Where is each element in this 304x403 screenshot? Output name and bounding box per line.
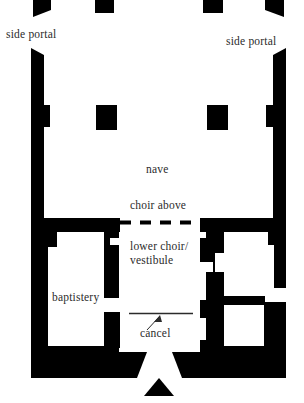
bottom-wall-splay-right (172, 352, 286, 378)
right-room-white-lower (224, 305, 264, 346)
nave-pier-right (207, 105, 228, 130)
nave-pier-left (96, 105, 117, 130)
top-wall-stub-outer-left (33, 0, 51, 17)
top-wall-stub-inner-right (203, 0, 223, 13)
right-room-step-bottom (206, 318, 224, 346)
right-nave-wall (266, 48, 286, 220)
baptistery-right-wall-lower-stub (104, 312, 120, 348)
baptistery-interior (48, 232, 104, 346)
lower-block-top-band-right (200, 218, 286, 232)
floor-plan-figure: side portal side portal nave choir above… (0, 0, 304, 403)
right-room-step-lower (206, 272, 224, 306)
bottom-wall-splay-left (31, 352, 147, 378)
baptistery-corner-notch (48, 232, 57, 247)
label-side-portal-left: side portal (6, 28, 56, 42)
lower-block-top-band-left (31, 218, 120, 232)
right-wall-opening (274, 288, 286, 302)
right-room-step-upper (206, 231, 224, 253)
top-wall-stub-inner-left (95, 0, 114, 13)
baptistery-doorway-gap (104, 298, 120, 312)
label-baptistery: baptistery (52, 291, 99, 305)
top-wall-stub-outer-right (265, 0, 284, 17)
left-nave-wall (31, 48, 50, 220)
cancel-leader-arrowhead (154, 315, 162, 322)
label-nave: nave (146, 163, 169, 177)
label-lower-choir-vestibule: lower choir/ vestibule (130, 240, 188, 267)
right-outer-wall-lower (274, 218, 286, 352)
label-choir-above: choir above (130, 199, 186, 213)
bottom-entrance-triangle-marker (144, 378, 174, 396)
label-side-portal-right: side portal (226, 35, 276, 49)
label-cancel: cancel (140, 327, 171, 341)
